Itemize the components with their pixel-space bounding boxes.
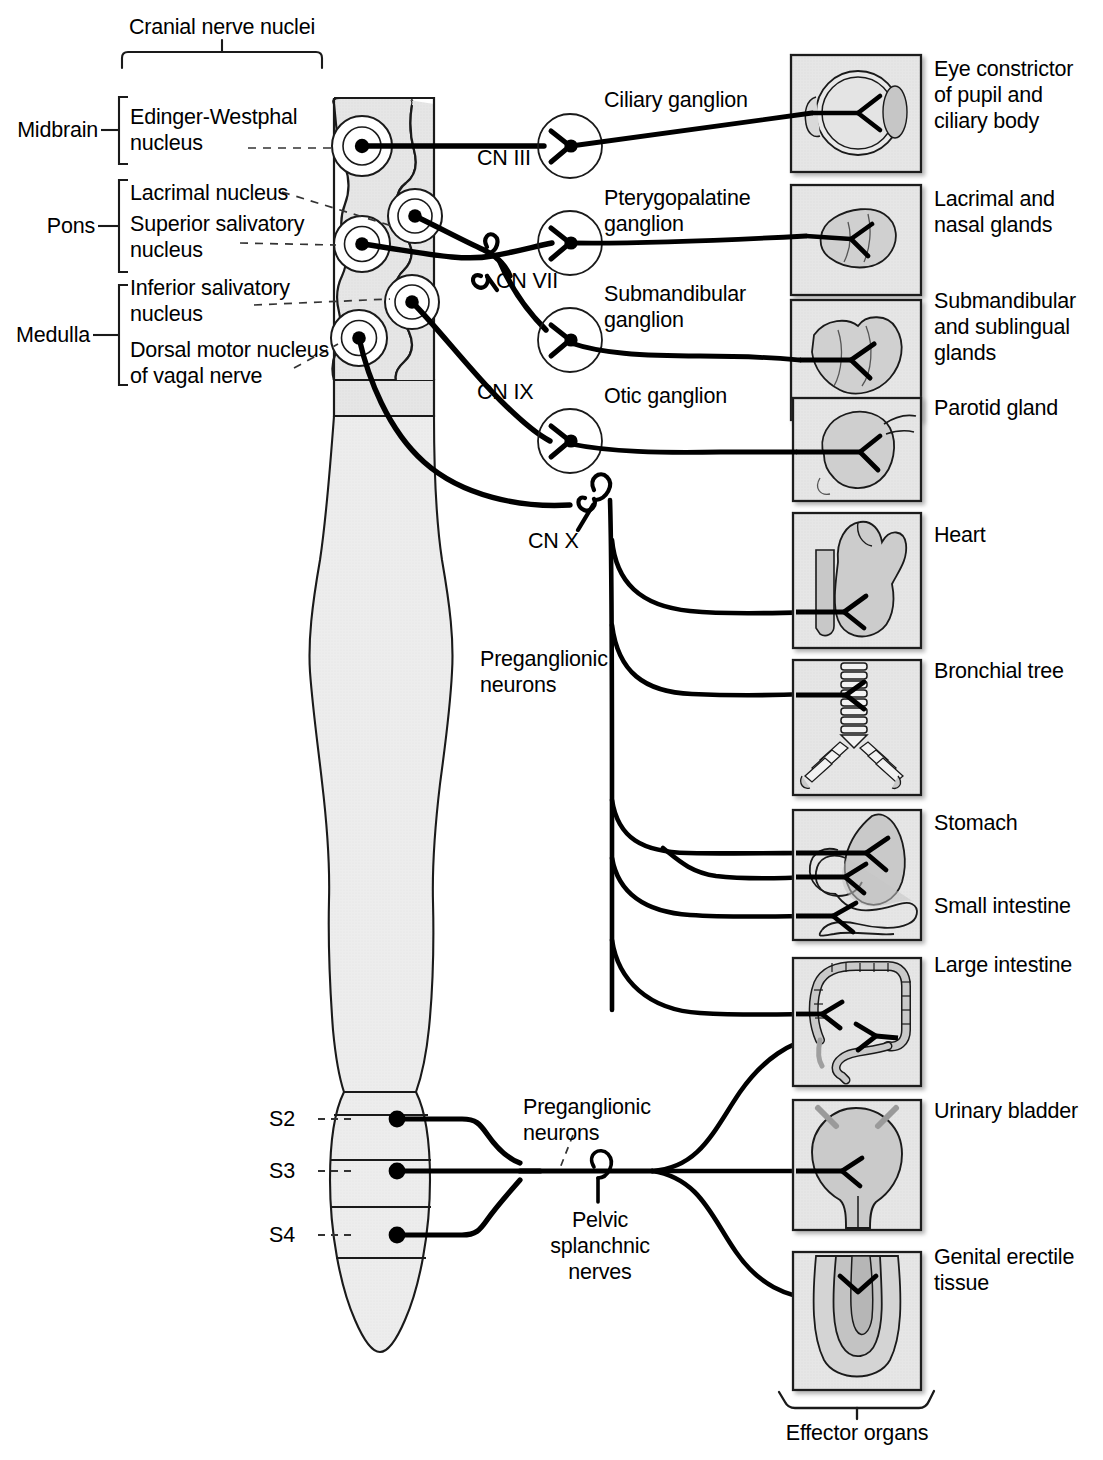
spinal-level-label-s3: S3 bbox=[269, 1158, 295, 1184]
annotation-preganglionic-neurons-sacral: Preganglionic neurons bbox=[523, 1094, 651, 1146]
nucleus-label-superior-salivatory: Superior salivatory nucleus bbox=[130, 211, 304, 263]
organ-box-lacrimal-gland bbox=[791, 185, 921, 295]
ganglion-label-submandibular: Submandibular ganglion bbox=[604, 281, 746, 333]
pelvic-splanchnic-loop bbox=[592, 1151, 612, 1202]
effector-organs-bracket bbox=[779, 1391, 934, 1419]
region-brackets bbox=[93, 97, 128, 385]
region-label-medulla: Medulla bbox=[0, 322, 90, 348]
region-label-midbrain: Midbrain bbox=[0, 117, 98, 143]
cranial-nerve-label-cn7: CN VII bbox=[496, 268, 558, 294]
organ-box-urinary-bladder bbox=[793, 1100, 921, 1230]
cranial-nerve-nuclei-bracket bbox=[122, 40, 322, 68]
organ-box-stomach-small-intestine bbox=[793, 810, 921, 940]
ganglion-otic bbox=[538, 409, 602, 473]
ganglion-label-otic: Otic ganglion bbox=[604, 383, 727, 409]
spinal-level-label-s2: S2 bbox=[269, 1106, 295, 1132]
organ-label-large-intestine: Large intestine bbox=[934, 952, 1072, 978]
annotation-pelvic-splanchnic-nerves: Pelvic splanchnic nerves bbox=[512, 1207, 688, 1285]
organ-label-bronchial-tree: Bronchial tree bbox=[934, 658, 1064, 684]
effector-organ-boxes bbox=[791, 55, 921, 1390]
ganglion-submandibular bbox=[538, 308, 602, 372]
cranial-nerve-label-cn3: CN III bbox=[477, 145, 531, 171]
organ-label-small-intestine: Small intestine bbox=[934, 893, 1071, 919]
organ-box-heart bbox=[793, 513, 921, 648]
organ-label-parotid-gland: Parotid gland bbox=[934, 395, 1058, 421]
cranial-nerve-label-cn9: CN IX bbox=[477, 379, 533, 405]
region-label-pons: Pons bbox=[0, 213, 95, 239]
figure-canvas: Cranial nerve nuclei Midbrain Pons Medul… bbox=[0, 0, 1103, 1460]
effector-organs-title: Effector organs bbox=[757, 1420, 957, 1446]
cranial-nerve-nuclei-title: Cranial nerve nuclei bbox=[120, 14, 324, 40]
nucleus-label-inferior-salivatory: Inferior salivatory nucleus bbox=[130, 275, 290, 327]
organ-box-large-intestine bbox=[793, 958, 921, 1086]
organ-label-eye: Eye constrictor of pupil and ciliary bod… bbox=[934, 56, 1073, 134]
organ-label-genital-erectile-tissue: Genital erectile tissue bbox=[934, 1244, 1074, 1296]
cranial-nerve-label-cn10: CN X bbox=[528, 528, 579, 554]
organ-label-heart: Heart bbox=[934, 522, 986, 548]
nucleus-label-edinger-westphal: Edinger-Westphal nucleus bbox=[130, 104, 297, 156]
ganglion-label-ciliary: Ciliary ganglion bbox=[604, 87, 748, 113]
organ-label-submandibular-sublingual-glands: Submandibular and sublingual glands bbox=[934, 288, 1076, 366]
organ-box-bronchial-tree bbox=[793, 660, 921, 795]
vagus-trunk-and-branches bbox=[610, 500, 812, 1015]
organ-label-urinary-bladder: Urinary bladder bbox=[934, 1098, 1078, 1124]
annotation-preganglionic-neurons-cranial: Preganglionic neurons bbox=[480, 646, 608, 698]
organ-box-genital-erectile-tissue bbox=[793, 1252, 921, 1390]
organ-label-stomach: Stomach bbox=[934, 810, 1017, 836]
ganglion-label-pterygopalatine: Pterygopalatine ganglion bbox=[604, 185, 750, 237]
nucleus-label-lacrimal: Lacrimal nucleus bbox=[130, 180, 288, 206]
nucleus-label-dorsal-motor-vagal: Dorsal motor nucleus of vagal nerve bbox=[130, 337, 329, 389]
organ-box-parotid-gland bbox=[793, 398, 921, 501]
spinal-level-label-s4: S4 bbox=[269, 1222, 295, 1248]
organ-label-lacrimal-nasal-glands: Lacrimal and nasal glands bbox=[934, 186, 1055, 238]
